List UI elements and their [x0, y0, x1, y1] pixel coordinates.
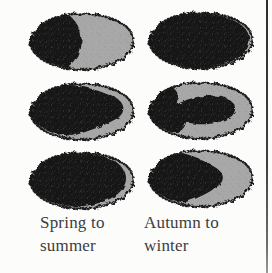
- label-autumn-to-winter: Autumn to winter: [144, 211, 219, 257]
- label-autumn-line-1: Autumn to: [144, 211, 219, 234]
- moult-sequence-figure: Spring to summer Autumn to winter: [0, 0, 272, 273]
- egg-spring-stage-1: [30, 14, 134, 69]
- egg-autumn-stage-3: [149, 151, 253, 206]
- label-autumn-line-2: winter: [144, 234, 219, 257]
- egg-autumn-stage-1: [149, 13, 253, 68]
- egg-spring-stage-3: [30, 153, 134, 208]
- page-edge-rule: [266, 0, 268, 273]
- label-spring-to-summer: Spring to summer: [40, 211, 105, 257]
- egg-autumn-stage-2: [149, 83, 253, 138]
- egg-spring-stage-2: [30, 84, 134, 139]
- label-spring-line-1: Spring to: [40, 211, 105, 234]
- label-spring-line-2: summer: [40, 234, 105, 257]
